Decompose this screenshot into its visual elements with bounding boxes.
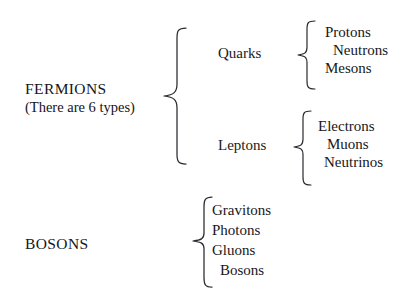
leaf-item-neutrons: Neutrons [333, 43, 388, 58]
leaf-item-photons: Photons [212, 223, 260, 238]
quarks-brace-icon [297, 19, 317, 91]
category-label-bosons: BOSONS [25, 236, 89, 252]
leaf-item-muons: Muons [327, 137, 369, 152]
leaf-item-gluons: Gluons [212, 243, 255, 258]
leaf-item-gravitons: Gravitons [212, 203, 271, 218]
bosons-brace-icon [192, 195, 214, 291]
leaf-item-protons: Protons [325, 25, 371, 40]
leptons-brace-icon [293, 109, 313, 187]
category-label-fermions: FERMIONS [25, 81, 107, 97]
category-sublabel-fermions: (There are 6 types) [25, 100, 135, 115]
subgroup-label-quarks: Quarks [218, 46, 261, 61]
particle-classification-diagram: FERMIONS (There are 6 types) Quarks Prot… [0, 0, 415, 306]
subgroup-label-leptons: Leptons [218, 138, 266, 153]
leaf-item-neutrinos: Neutrinos [324, 155, 383, 170]
fermions-brace-icon [162, 26, 188, 166]
leaf-item-mesons: Mesons [325, 61, 372, 76]
leaf-item-electrons: Electrons [318, 119, 375, 134]
leaf-item-bosons: Bosons [220, 263, 264, 278]
